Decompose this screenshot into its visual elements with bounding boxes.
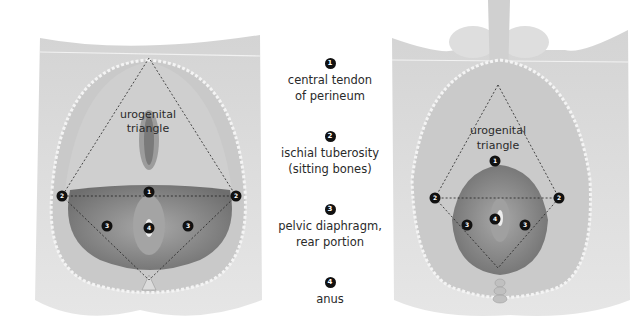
marker-3-left: 3 [102, 221, 113, 232]
svg-text:2: 2 [557, 194, 561, 201]
number-badge-1: 1 [325, 58, 336, 69]
svg-text:1: 1 [147, 188, 151, 195]
svg-text:2: 2 [60, 192, 64, 199]
marker-1: 1 [144, 187, 155, 198]
urogenital-triangle-label: urogenital [120, 108, 176, 121]
svg-text:2: 2 [234, 192, 238, 199]
marker-4: 4 [144, 223, 155, 234]
marker-4: 4 [490, 214, 501, 225]
marker-2-left: 2 [430, 193, 441, 204]
svg-text:3: 3 [105, 222, 109, 229]
svg-text:3: 3 [186, 222, 190, 229]
svg-text:3: 3 [465, 221, 469, 228]
marker-3-right: 3 [183, 221, 194, 232]
number-badge-3: 3 [325, 204, 336, 215]
svg-text:4: 4 [493, 215, 497, 222]
male-perineum-illustration: urogenital triangle 1 2 2 3 3 4 [380, 0, 640, 335]
marker-3-left: 3 [462, 220, 473, 231]
marker-1: 1 [490, 156, 501, 167]
marker-2-right: 2 [554, 193, 565, 204]
svg-text:2: 2 [433, 194, 437, 201]
svg-text:3: 3 [523, 221, 527, 228]
marker-3-right: 3 [520, 220, 531, 231]
number-badge-4: 4 [325, 277, 336, 288]
urogenital-triangle-label-2: triangle [127, 122, 170, 135]
urogenital-triangle-label-2: triangle [477, 139, 520, 152]
urogenital-triangle-label: urogenital [470, 124, 526, 137]
svg-text:4: 4 [147, 224, 151, 231]
marker-2-right: 2 [231, 191, 242, 202]
female-perineum-illustration: urogenital triangle 1 2 2 3 3 4 [0, 0, 270, 335]
marker-2-left: 2 [57, 191, 68, 202]
svg-text:1: 1 [493, 157, 497, 164]
number-badge-2: 2 [325, 131, 336, 142]
